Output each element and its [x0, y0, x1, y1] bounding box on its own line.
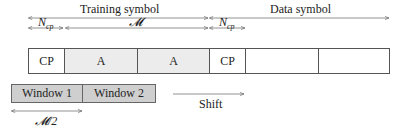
half-m-label: 𝓜/2 [35, 115, 57, 127]
cell-data-1 [245, 48, 319, 74]
ncp-base: N [219, 15, 227, 29]
training-symbol-label: Training symbol [80, 3, 159, 15]
cell-data-2 [318, 48, 390, 74]
ncp-base: N [38, 15, 46, 29]
m-label: 𝓜 [129, 16, 142, 28]
cell-cp-training: CP [28, 48, 65, 74]
cell-cp-data: CP [209, 48, 246, 74]
window-1: Window 1 [11, 84, 83, 103]
cell-label: A [169, 54, 178, 69]
cell-label: A [97, 54, 106, 69]
ncp-data-label: Ncp [219, 16, 235, 33]
cell-a-1: A [64, 48, 138, 74]
window-2: Window 2 [82, 84, 156, 103]
cell-label: CP [39, 54, 54, 69]
ncp-sub: cp [227, 22, 235, 31]
ncp-sub: cp [46, 22, 54, 31]
shift-label: Shift [199, 98, 222, 110]
window-label: Window 2 [94, 86, 144, 101]
data-symbol-label: Data symbol [270, 3, 331, 15]
cell-a-2: A [137, 48, 210, 74]
cell-label: CP [220, 54, 235, 69]
window-label: Window 1 [22, 86, 72, 101]
ncp-training-label: Ncp [38, 16, 54, 33]
